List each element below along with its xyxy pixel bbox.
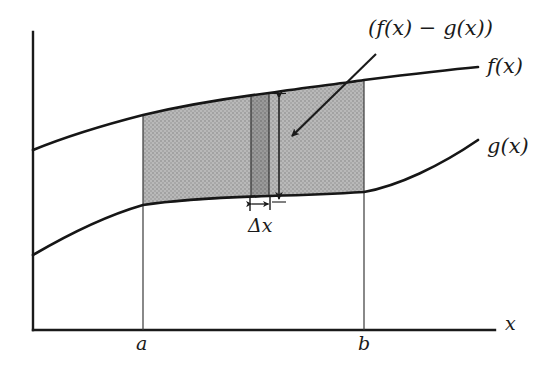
delta-x-label: Δx (248, 216, 272, 235)
curve-g-label: g(x) (487, 136, 529, 157)
difference-label: (f(x) − g(x)) (368, 18, 493, 39)
diagram-canvas (0, 0, 553, 373)
area-between-curves-figure: (f(x) − g(x)) f(x) g(x) Δx a b x (0, 0, 553, 373)
sample-strip (251, 93, 269, 197)
curve-f-label: f(x) (487, 56, 523, 77)
x-axis-label: x (505, 314, 516, 333)
lower-bound-label: a (136, 334, 147, 353)
upper-bound-label: b (358, 334, 370, 353)
